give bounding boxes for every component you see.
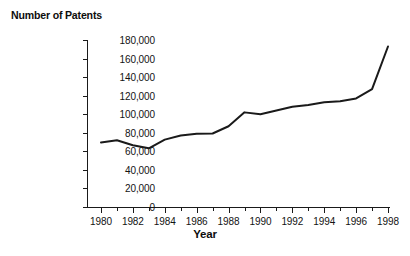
page-title: Number of Patents [11,9,102,21]
x-axis-tick-label: 1984 [154,216,176,227]
x-axis-tick-label: 1986 [186,216,208,227]
x-axis-tick-label: 1994 [313,216,335,227]
x-axis-tick-label: 1992 [281,216,303,227]
x-axis-tick-label: 1990 [250,216,272,227]
x-axis-tick-label: 1982 [122,216,144,227]
x-axis-tick-label: 1998 [377,216,399,227]
x-axis-tick-label: 1980 [90,216,112,227]
x-axis-caption: Year [0,228,410,240]
chart-page: Number of Patents 020,00040,00060,00080,… [0,0,410,256]
x-axis-tick-label: 1996 [345,216,367,227]
x-axis-labels: 1980198219841986198819901992199419961998 [87,207,390,229]
series-line-patents [87,40,390,207]
plot-area: 020,00040,00060,00080,000100,000120,0001… [87,40,390,207]
x-axis-tick-label: 1988 [218,216,240,227]
